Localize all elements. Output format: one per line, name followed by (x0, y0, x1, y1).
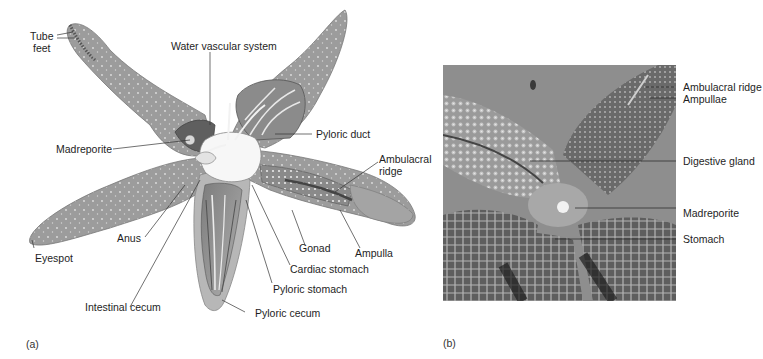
label-madreporite-a: Madreporite (56, 143, 112, 155)
label-pyloric-duct: Pyloric duct (316, 128, 370, 140)
label-tube-feet: Tube feet (30, 30, 54, 54)
label-ampullae: Ampullae (683, 93, 727, 105)
label-gonad: Gonad (299, 242, 331, 254)
label-pyloric-stomach: Pyloric stomach (273, 283, 347, 295)
starfish-photo (443, 65, 676, 301)
label-water-vascular-system: Water vascular system (171, 40, 277, 52)
label-ambulacral-ridge-b: Ambulacral ridge (683, 81, 762, 93)
label-digestive-gland: Digestive gland (683, 155, 755, 167)
label-pyloric-cecum: Pyloric cecum (255, 307, 320, 319)
label-intestinal-cecum: Intestinal cecum (85, 301, 161, 313)
label-ampulla: Ampulla (355, 247, 393, 259)
label-ambulacral-ridge-a: Ambulacral ridge (379, 153, 432, 177)
label-stomach: Stomach (683, 233, 724, 245)
label-eyespot: Eyespot (35, 252, 73, 264)
photo-madreporite (557, 201, 569, 213)
label-anus: Anus (117, 232, 141, 244)
label-cardiac-stomach: Cardiac stomach (290, 263, 369, 275)
panel-tag-a: (a) (26, 338, 39, 350)
label-madreporite-b: Madreporite (683, 207, 739, 219)
panel-tag-b: (b) (443, 337, 456, 349)
